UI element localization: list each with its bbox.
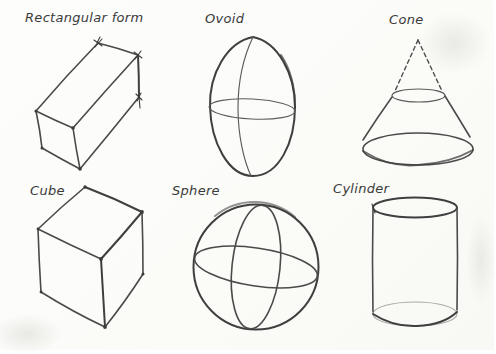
cone-base-front-arc	[363, 150, 473, 165]
cylinder-top-ellipse	[373, 198, 457, 218]
cone-top-ellipse	[392, 89, 445, 102]
cone-drawing	[355, 32, 485, 175]
cone-left-slant	[363, 97, 392, 140]
rectangular-form-drawing	[20, 30, 160, 180]
figure-sphere	[185, 198, 325, 336]
sphere-outline	[194, 205, 319, 330]
construction-corner-marks	[34, 37, 142, 171]
label-sphere: Sphere	[172, 183, 220, 198]
figure-ovoid	[195, 30, 305, 185]
cylinder-left-side	[373, 209, 374, 312]
label-rectangular-form: Rectangular form	[25, 10, 143, 25]
cone-right-slant	[445, 96, 470, 137]
cone-dashed-apex-lines	[395, 40, 442, 91]
ovoid-drawing	[195, 30, 305, 185]
figure-cylinder	[355, 190, 485, 340]
figure-rectangular-form	[20, 30, 160, 180]
cylinder-drawing	[355, 190, 485, 340]
sphere-meridian-ellipse	[226, 203, 287, 331]
sphere-equator-ellipse	[192, 239, 320, 295]
cylinder-bottom-front-arc	[373, 312, 457, 326]
box-edges	[36, 43, 139, 169]
cube-edges	[38, 187, 143, 327]
cylinder-right-side	[457, 207, 458, 310]
cylinder-bottom-ellipse-back	[373, 302, 457, 326]
sphere-drawing	[185, 198, 325, 336]
cube-drawing	[25, 182, 160, 337]
label-ovoid: Ovoid	[205, 11, 244, 26]
label-cone: Cone	[389, 12, 423, 27]
cube-corner-marks	[37, 185, 145, 329]
equator-ellipse	[209, 97, 296, 121]
figure-cube	[25, 182, 160, 337]
meridian-line	[238, 37, 253, 176]
figure-cone	[355, 32, 485, 175]
